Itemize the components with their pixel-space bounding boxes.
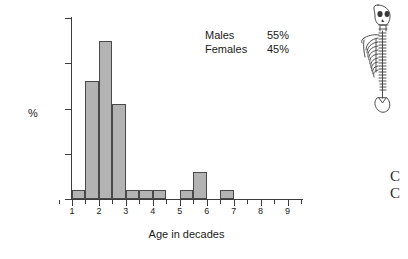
histogram-bar	[193, 172, 206, 199]
y-tick	[65, 109, 71, 110]
x-tick-minor	[220, 200, 221, 204]
x-tick-label: 3	[116, 206, 136, 217]
x-tick-label: 4	[143, 206, 163, 217]
histogram-bar	[220, 190, 233, 199]
x-tick-minor	[59, 200, 60, 204]
legend-row: Males 55%	[205, 28, 307, 42]
x-tick-minor	[193, 200, 194, 204]
histogram-bar	[112, 104, 125, 199]
y-tick	[65, 18, 71, 19]
x-tick-label: 7	[224, 206, 244, 217]
x-tick-minor	[247, 200, 248, 204]
histogram-bar	[126, 190, 139, 199]
y-tick	[65, 154, 71, 155]
x-tick-minor	[301, 200, 302, 204]
histogram-bar	[180, 190, 193, 199]
y-axis-title: %	[28, 107, 38, 119]
legend-label-females: Females	[205, 42, 267, 56]
histogram-chart: 010203040 123456789 % Age in decades Mal…	[0, 0, 340, 259]
x-tick-label: 2	[89, 206, 109, 217]
skeleton-icon	[352, 2, 402, 114]
x-tick-minor	[139, 200, 140, 204]
clipped-margin-text: C C	[390, 168, 408, 208]
legend-label-males: Males	[205, 28, 267, 42]
y-tick	[65, 199, 71, 200]
x-tick-minor	[112, 200, 113, 204]
x-tick-label: 9	[278, 206, 298, 217]
legend-value-females: 45%	[267, 42, 307, 56]
histogram-bar	[99, 41, 112, 199]
x-tick-minor	[85, 200, 86, 204]
x-tick-label: 1	[62, 206, 82, 217]
histogram-bar	[153, 190, 166, 199]
x-axis-title: Age in decades	[72, 228, 301, 240]
histogram-bar	[139, 190, 152, 199]
x-tick-label: 6	[197, 206, 217, 217]
chart-annotation-legend: Males 55% Females 45%	[205, 28, 307, 56]
x-axis-line	[71, 199, 303, 200]
x-tick-minor	[166, 200, 167, 204]
figure-page: 010203040 123456789 % Age in decades Mal…	[0, 0, 408, 259]
x-tick-minor	[274, 200, 275, 204]
histogram-bar	[72, 190, 85, 199]
legend-row: Females 45%	[205, 42, 307, 56]
histogram-bar	[85, 81, 98, 199]
y-tick	[65, 63, 71, 64]
x-tick-label: 8	[251, 206, 271, 217]
x-tick-label: 5	[170, 206, 190, 217]
legend-value-males: 55%	[267, 28, 307, 42]
